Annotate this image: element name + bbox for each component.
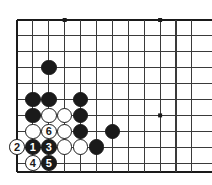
go-stone-white-move-4: 4	[25, 155, 41, 171]
go-stone-white	[41, 108, 57, 124]
go-stones-layer: 621345	[0, 0, 212, 185]
go-stone-white	[73, 139, 89, 155]
move-number-label: 3	[46, 141, 52, 152]
go-stone-black-move-5: 5	[41, 155, 57, 171]
go-stone-black	[89, 139, 105, 155]
go-stone-black	[73, 124, 89, 140]
go-stone-black	[41, 60, 57, 76]
move-number-label: 5	[46, 157, 52, 168]
go-stone-black	[25, 92, 41, 108]
go-stone-black-move-1: 1	[25, 139, 41, 155]
go-board-diagram: 621345	[0, 0, 212, 185]
go-stone-black	[73, 92, 89, 108]
go-stone-white-move-2: 2	[9, 139, 25, 155]
go-stone-black	[73, 108, 89, 124]
go-stone-white	[57, 108, 73, 124]
move-number-label: 6	[46, 125, 52, 136]
go-stone-white-move-6: 6	[41, 124, 57, 140]
go-stone-black	[41, 92, 57, 108]
go-stone-black	[105, 124, 121, 140]
go-stone-white	[25, 124, 41, 140]
move-number-label: 2	[14, 141, 20, 152]
move-number-label: 1	[30, 141, 36, 152]
go-stone-black-move-3: 3	[41, 139, 57, 155]
go-stone-white	[57, 124, 73, 140]
go-stone-black	[25, 108, 41, 124]
move-number-label: 4	[30, 157, 36, 168]
go-stone-white	[57, 139, 73, 155]
